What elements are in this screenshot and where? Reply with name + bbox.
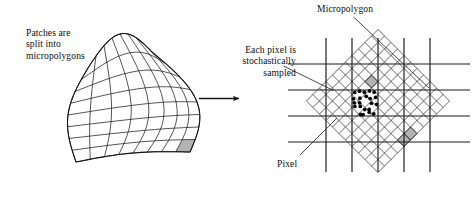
patch-micropolygon-mesh bbox=[67, 34, 199, 162]
sample-dot bbox=[368, 89, 372, 93]
sample-dot bbox=[363, 90, 367, 94]
leader-line-pixel bbox=[300, 118, 337, 155]
sample-dot bbox=[358, 96, 362, 100]
sample-dot bbox=[353, 105, 357, 109]
right-pixel-diagram bbox=[284, 17, 471, 173]
sample-dot bbox=[358, 105, 362, 109]
sample-dot bbox=[361, 113, 365, 117]
sample-dot bbox=[370, 101, 374, 105]
sample-dot bbox=[372, 112, 376, 116]
sample-dot bbox=[375, 103, 379, 107]
sample-dot bbox=[358, 89, 362, 93]
leader-line-micropolygon bbox=[354, 17, 430, 88]
sample-dot bbox=[372, 90, 376, 94]
caption-patches-are-split-into-micropolygons: Patches are split into micropolygons bbox=[26, 27, 85, 61]
caption-pixel: Pixel bbox=[277, 158, 297, 169]
sample-dot bbox=[374, 96, 378, 100]
sample-dot bbox=[352, 101, 356, 105]
left-patch-diagram bbox=[67, 34, 199, 162]
stochastic-sample-dots bbox=[352, 89, 379, 116]
caption-micropolygon: Micropolygon bbox=[317, 3, 373, 14]
caption-each-pixel-is-stochastically-sampled: Each pixel is stochastically sampled bbox=[188, 44, 296, 78]
sample-dot bbox=[364, 94, 368, 98]
sample-dot bbox=[363, 108, 367, 112]
sample-dot bbox=[367, 110, 371, 114]
sample-dot bbox=[358, 101, 362, 105]
sample-dot bbox=[368, 97, 372, 101]
shaded-micropolygon bbox=[365, 75, 378, 88]
shaded-micropolygons bbox=[365, 75, 417, 147]
sample-dot bbox=[353, 91, 357, 95]
sample-dot bbox=[352, 97, 356, 101]
